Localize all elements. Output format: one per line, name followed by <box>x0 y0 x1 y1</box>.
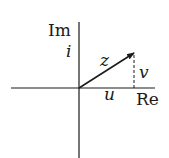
complex-plane-diagram: Im i z v u Re <box>0 0 169 158</box>
real-part-u-label: u <box>104 86 115 103</box>
imag-unit-label: i <box>66 43 71 60</box>
imag-part-v-label: v <box>139 64 149 81</box>
real-axis-label: Re <box>136 91 159 108</box>
vector-z-label: z <box>100 52 109 69</box>
imag-axis-label: Im <box>48 22 71 39</box>
